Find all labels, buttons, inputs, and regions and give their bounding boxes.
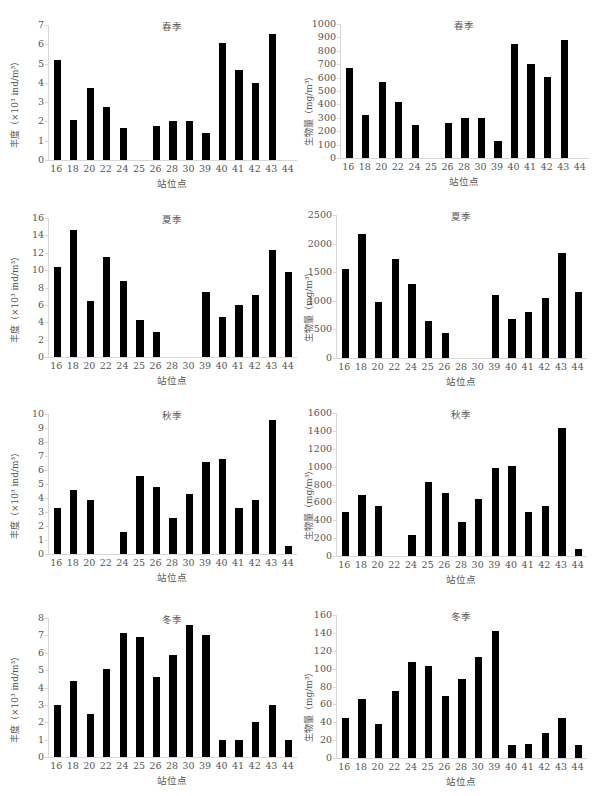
y-tick-label: 0 xyxy=(14,352,44,362)
bar-station-41 xyxy=(525,512,532,556)
bar-station-16 xyxy=(342,718,349,758)
bar-station-24 xyxy=(408,535,415,556)
x-axis-label: 站位点 xyxy=(421,572,501,586)
plot-area xyxy=(48,218,297,358)
y-tick-label: 1200 xyxy=(302,444,332,454)
y-tick-mark xyxy=(333,502,336,503)
bar-station-40 xyxy=(508,466,515,556)
x-axis-label: 站位点 xyxy=(132,373,212,387)
bar-station-42 xyxy=(542,733,549,758)
y-tick-mark xyxy=(337,37,340,38)
bar-station-18 xyxy=(70,120,77,161)
bar-station-30 xyxy=(475,499,482,556)
bar-station-42 xyxy=(542,298,549,358)
y-tick-label: 8 xyxy=(14,437,44,447)
bar-station-26 xyxy=(442,493,449,556)
y-tick-mark xyxy=(45,635,48,636)
bar-station-24 xyxy=(120,633,127,757)
y-tick-mark xyxy=(337,91,340,92)
bar-station-20 xyxy=(87,500,94,554)
y-tick-mark xyxy=(333,556,336,557)
bar-station-20 xyxy=(379,82,386,158)
bar-station-26 xyxy=(153,126,160,160)
plot-area xyxy=(336,413,587,557)
bar-station-41 xyxy=(525,744,532,758)
bar-station-41 xyxy=(235,508,242,554)
bar-station-18 xyxy=(358,699,365,758)
y-tick-mark xyxy=(333,431,336,432)
y-tick-label: 8 xyxy=(14,613,44,623)
bar-station-43 xyxy=(269,420,276,554)
bar-station-24 xyxy=(408,662,415,758)
y-tick-label: 0 xyxy=(14,155,44,165)
bar-station-16 xyxy=(54,508,61,554)
y-tick-mark xyxy=(45,526,48,527)
bar-station-24 xyxy=(120,532,127,554)
y-tick-mark xyxy=(45,64,48,65)
y-tick-mark xyxy=(45,305,48,306)
y-tick-mark xyxy=(45,414,48,415)
bar-station-39 xyxy=(494,141,501,158)
y-tick-label: 900 xyxy=(306,32,336,42)
bar-station-28 xyxy=(169,121,176,160)
y-tick-mark xyxy=(45,653,48,654)
y-axis-label: 生物量（mg/m³） xyxy=(302,465,315,539)
bar-station-24 xyxy=(120,281,127,357)
y-tick-mark xyxy=(45,498,48,499)
bar-station-40 xyxy=(219,43,226,160)
x-axis-label: 站位点 xyxy=(421,774,501,788)
bar-station-24 xyxy=(408,284,415,358)
bar-station-42 xyxy=(544,77,551,158)
bar-station-39 xyxy=(492,295,499,358)
y-tick-mark xyxy=(333,485,336,486)
bar-station-18 xyxy=(70,490,77,554)
y-tick-mark xyxy=(45,44,48,45)
y-tick-label: 120 xyxy=(302,646,332,656)
y-tick-label: 1000 xyxy=(306,19,336,29)
bar-station-25 xyxy=(425,666,432,758)
bar-station-41 xyxy=(235,740,242,757)
y-tick-mark xyxy=(337,64,340,65)
y-axis-label: 生物量（mg/m³） xyxy=(302,267,315,341)
bar-station-22 xyxy=(103,669,110,757)
bar-station-26 xyxy=(442,696,449,758)
y-tick-label: 0 xyxy=(302,753,332,763)
chart-panel: 秋季02004006008001000120014001600161820222… xyxy=(300,398,600,596)
y-tick-mark xyxy=(45,141,48,142)
y-tick-mark xyxy=(337,145,340,146)
bar-station-30 xyxy=(186,625,193,757)
y-tick-mark xyxy=(333,740,336,741)
bar-station-30 xyxy=(186,121,193,160)
y-tick-mark xyxy=(45,288,48,289)
bar-station-44 xyxy=(285,546,292,554)
y-axis-label: 丰度（×10³ ind/m³） xyxy=(8,56,21,147)
y-tick-mark xyxy=(45,322,48,323)
bar-station-20 xyxy=(87,301,94,357)
bar-station-40 xyxy=(219,740,226,757)
y-tick-mark xyxy=(333,538,336,539)
bar-station-43 xyxy=(269,705,276,757)
y-tick-label: 160 xyxy=(302,610,332,620)
y-tick-mark xyxy=(45,121,48,122)
bar-station-39 xyxy=(202,635,209,757)
bar-station-22 xyxy=(103,257,110,357)
bar-station-18 xyxy=(362,115,369,158)
bar-station-39 xyxy=(202,133,209,160)
bar-station-30 xyxy=(475,657,482,758)
y-tick-label: 10 xyxy=(14,409,44,419)
bar-station-25 xyxy=(136,637,143,757)
chart-panel: 夏季02468101214161618202224252628303940414… xyxy=(0,199,300,397)
bar-station-16 xyxy=(54,60,61,160)
chart-panel: 春季01002003004005006007008009001000161820… xyxy=(300,0,600,198)
y-tick-mark xyxy=(333,215,336,216)
y-tick-mark xyxy=(45,554,48,555)
plot-area xyxy=(48,618,297,758)
y-tick-mark xyxy=(337,24,340,25)
bar-station-41 xyxy=(525,312,532,358)
y-axis-label: 丰度（×10³ ind/m³） xyxy=(8,251,21,342)
y-tick-mark xyxy=(45,705,48,706)
y-tick-mark xyxy=(333,358,336,359)
x-tick-label: 44 xyxy=(278,164,298,174)
chart-panel: 秋季01234567891016182022242526283039404142… xyxy=(0,398,300,596)
bar-station-22 xyxy=(395,102,402,158)
